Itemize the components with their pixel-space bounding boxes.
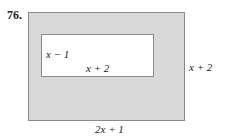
problem-number: 76. xyxy=(7,8,22,23)
inner-bottom-label: x + 2 xyxy=(86,62,109,74)
outer-side-label: x + 2 xyxy=(189,61,212,73)
inner-side-label: x − 1 xyxy=(46,48,69,60)
outer-bottom-label: 2x + 1 xyxy=(95,123,124,135)
